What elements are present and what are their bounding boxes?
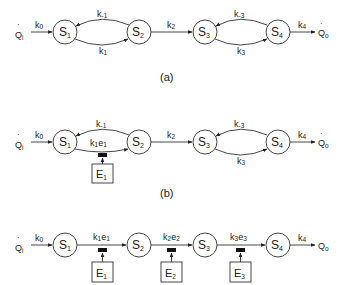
k-minus1-label: k-1 xyxy=(97,9,108,19)
enzyme-box-e1: E1 xyxy=(92,262,113,282)
input-flux-qi: Qi · k0 xyxy=(15,130,52,151)
edge-k3 xyxy=(215,149,267,155)
svg-text:Qo: Qo xyxy=(318,138,329,149)
edge-k-minus3 xyxy=(216,19,267,26)
svg-text:k3: k3 xyxy=(237,156,246,166)
qi-label: Qi xyxy=(15,30,23,41)
svg-text:k2: k2 xyxy=(167,130,176,140)
edge-k-minus3 xyxy=(216,129,267,136)
enzyme-box-e2: E2 xyxy=(161,262,182,282)
node-s3: S3 xyxy=(193,130,217,154)
input-flux-qi: Qi · k0 xyxy=(15,20,52,41)
node-s3: S3 xyxy=(193,20,217,44)
qo-label: Qo xyxy=(318,28,329,39)
svg-text:·: · xyxy=(17,233,20,242)
edge-k1e1 xyxy=(75,149,128,152)
svg-text:Qo: Qo xyxy=(318,241,329,252)
svg-text:k1e1: k1e1 xyxy=(93,232,110,242)
svg-text:k0: k0 xyxy=(35,233,44,243)
k1e1-label: k1e1 xyxy=(90,138,107,148)
svg-text:k4: k4 xyxy=(298,130,307,140)
svg-text:Qi: Qi xyxy=(15,243,23,254)
svg-text:k3e3: k3e3 xyxy=(230,232,247,242)
k4-label: k4 xyxy=(298,20,307,30)
k2-label: k2 xyxy=(167,20,176,30)
svg-text:k-3: k-3 xyxy=(234,119,245,129)
input-flux-qi: Qi · k0 xyxy=(15,233,52,254)
output-flux-qo: k4 Qo · xyxy=(290,129,329,149)
node-s3: S3 xyxy=(193,233,217,257)
k1-label: k1 xyxy=(99,46,108,56)
effector-bar-e2 xyxy=(167,248,176,252)
compartment-diagram: Qi · k0 S1 S2 S3 S4 k-1 k1 k2 xyxy=(0,0,346,285)
edge-k3 xyxy=(215,39,267,45)
qi-dot: · xyxy=(17,20,20,29)
panel-b: Qi · k0 S1 S2 S3 S4 k-1 k1e1 E1 xyxy=(15,119,329,199)
k-minus3-label: k-3 xyxy=(234,9,245,19)
node-s4: S4 xyxy=(266,130,290,154)
caption-b: (b) xyxy=(160,187,173,199)
effector-bar-e3 xyxy=(236,248,245,252)
node-s1: S1 xyxy=(53,233,77,257)
node-s1: S1 xyxy=(53,20,77,44)
output-flux-qo: k4 Qo · xyxy=(290,19,329,39)
caption-a: (a) xyxy=(160,71,173,83)
node-s4: S4 xyxy=(266,233,290,257)
svg-text:k-1: k-1 xyxy=(96,119,107,129)
node-s2: S2 xyxy=(127,233,151,257)
effector-bar-e1 xyxy=(98,153,107,157)
enzyme-box-e3: E3 xyxy=(230,262,251,282)
enzyme-box-e1: E1 xyxy=(92,164,113,183)
panel-c: Qi · k0 S1 S2 S3 S4 k1e1 E1 xyxy=(15,232,329,282)
edge-k1 xyxy=(75,39,128,45)
effector-bar-e1 xyxy=(98,248,107,252)
k3-label: k3 xyxy=(237,46,246,56)
node-s4: S4 xyxy=(266,20,290,44)
qo-dot: · xyxy=(320,19,323,28)
output-flux-qo: k4 Qo xyxy=(290,233,329,252)
node-s1: S1 xyxy=(53,130,77,154)
svg-text:k2e2: k2e2 xyxy=(163,232,180,242)
panel-a: Qi · k0 S1 S2 S3 S4 k-1 k1 k2 xyxy=(15,9,329,83)
svg-text:Qi: Qi xyxy=(15,140,23,151)
svg-text:k4: k4 xyxy=(298,233,307,243)
svg-text:·: · xyxy=(320,129,323,138)
edge-k-minus1 xyxy=(76,129,129,136)
svg-text:k0: k0 xyxy=(35,130,44,140)
k0-label: k0 xyxy=(35,20,44,30)
node-s2: S2 xyxy=(127,20,151,44)
edge-k-minus1 xyxy=(76,19,129,26)
svg-text:·: · xyxy=(17,130,20,139)
node-s2: S2 xyxy=(127,130,151,154)
